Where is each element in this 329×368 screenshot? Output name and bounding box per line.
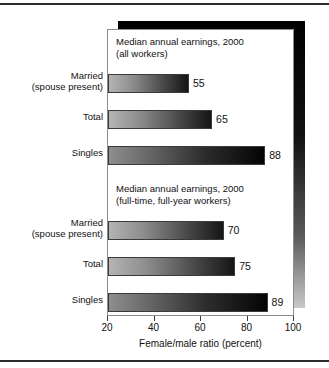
bar-value-all-total: 65 (216, 110, 228, 129)
category-label-all-married: Married (spouse present) (0, 70, 103, 92)
x-tick-100 (293, 316, 294, 321)
top-rule (0, 3, 329, 5)
x-tick-label-60: 60 (194, 322, 205, 333)
x-tick-label-80: 80 (241, 322, 252, 333)
x-tick-80 (247, 316, 248, 321)
bar-all-singles (108, 146, 265, 165)
bar-value-all-singles: 88 (269, 146, 281, 165)
x-tick-label-20: 20 (101, 322, 112, 333)
category-label-ft-total: Total (0, 258, 103, 269)
figure-root: Married (spouse present)TotalSinglesMarr… (0, 0, 329, 368)
plot-area: Median annual earnings, 2000 (all worker… (108, 30, 293, 315)
x-tick-label-100: 100 (285, 322, 302, 333)
category-label-all-singles: Singles (0, 147, 103, 158)
x-tick-label-40: 40 (148, 322, 159, 333)
category-label-all-total: Total (0, 111, 103, 122)
bar-ft-married (108, 221, 224, 240)
x-axis-title: Female/male ratio (percent) (107, 338, 294, 349)
x-axis-tick-labels: 20 40 60 80 100 (107, 322, 294, 336)
bar-value-ft-singles: 89 (272, 293, 284, 312)
x-tick-20 (107, 316, 108, 321)
chart-panel: Median annual earnings, 2000 (all worker… (107, 29, 294, 316)
bar-value-ft-married: 70 (228, 221, 240, 240)
bottom-rule (0, 360, 329, 362)
x-tick-60 (200, 316, 201, 321)
bar-all-total (108, 110, 212, 129)
section-title-fulltime-workers: Median annual earnings, 2000 (full-time,… (116, 183, 244, 206)
bar-ft-singles (108, 293, 268, 312)
category-label-column: Married (spouse present)TotalSinglesMarr… (0, 29, 103, 316)
bar-value-all-married: 55 (193, 74, 205, 93)
category-label-ft-singles: Singles (0, 294, 103, 305)
bar-all-married (108, 74, 189, 93)
section-title-all-workers: Median annual earnings, 2000 (all worker… (116, 36, 244, 59)
category-label-ft-married: Married (spouse present) (0, 217, 103, 239)
x-tick-40 (154, 316, 155, 321)
bar-value-ft-total: 75 (239, 257, 251, 276)
bar-ft-total (108, 257, 235, 276)
